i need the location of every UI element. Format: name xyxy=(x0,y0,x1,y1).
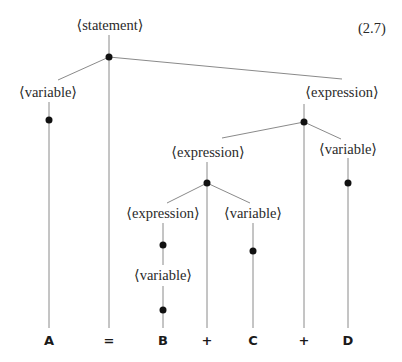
terminal-plus-1: + xyxy=(202,333,213,348)
node-dot xyxy=(160,307,167,314)
node-dot xyxy=(160,242,167,249)
node-dot xyxy=(46,117,53,124)
node-statement: ⟨statement⟩ xyxy=(77,17,144,34)
node-variable-a: ⟨variable⟩ xyxy=(19,84,77,101)
terminal-c: C xyxy=(248,333,258,348)
terminal-equals: = xyxy=(104,333,115,348)
node-expression-top: ⟨expression⟩ xyxy=(305,84,378,101)
parse-tree-diagram: (2.7) ⟨statement⟩ ⟨variable⟩ ⟨expression… xyxy=(0,0,402,362)
node-dot xyxy=(204,180,211,187)
tree-edges xyxy=(0,0,402,362)
equation-number: (2.7) xyxy=(358,20,386,37)
node-variable-b: ⟨variable⟩ xyxy=(134,267,192,284)
terminal-a: A xyxy=(44,333,54,348)
terminal-plus-2: + xyxy=(299,333,310,348)
terminal-b: B xyxy=(158,333,168,348)
node-dot xyxy=(345,180,352,187)
node-variable-c: ⟨variable⟩ xyxy=(224,205,282,222)
node-variable-d: ⟨variable⟩ xyxy=(319,141,377,158)
node-expression-mid: ⟨expression⟩ xyxy=(171,144,244,161)
node-dot xyxy=(106,54,113,61)
terminal-d: D xyxy=(343,333,354,348)
node-dot xyxy=(301,119,308,126)
node-dot xyxy=(250,248,257,255)
node-expression-low: ⟨expression⟩ xyxy=(126,205,199,222)
